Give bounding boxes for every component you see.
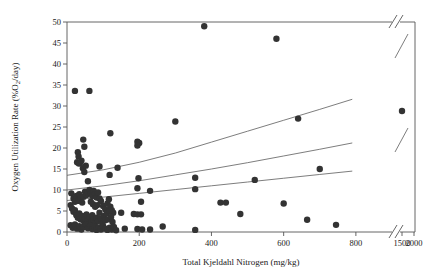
scatter-plot-figure: 0510152025303540455002004006008001500200… xyxy=(0,0,446,280)
data-point xyxy=(147,226,153,232)
x-tick-label-2000: 2000 xyxy=(406,238,423,248)
data-point xyxy=(280,200,286,206)
data-point xyxy=(172,118,178,124)
data-point xyxy=(81,144,87,150)
axes-layer xyxy=(63,15,415,238)
y-axis-label-main: Oxygen Utilization Rate (%O xyxy=(10,84,20,192)
y-tick-label-25: 25 xyxy=(53,122,62,132)
y-tick-label-40: 40 xyxy=(53,59,62,69)
y-tick-label-0: 0 xyxy=(57,227,61,237)
middle-curve-right xyxy=(395,128,408,152)
data-point xyxy=(147,188,153,194)
x-tick-label-0: 0 xyxy=(65,238,69,248)
data-point xyxy=(106,196,112,202)
data-point xyxy=(95,189,101,195)
y-axis-label-text: Oxygen Utilization Rate (%O2/day) xyxy=(10,63,21,192)
plot-frame-right-stub xyxy=(400,22,415,232)
data-point xyxy=(118,209,124,215)
data-point xyxy=(399,108,405,114)
y-axis-label: Oxygen Utilization Rate (%O2/day) xyxy=(10,63,21,192)
data-point xyxy=(80,136,86,142)
data-point xyxy=(192,175,198,181)
data-point xyxy=(223,199,229,205)
y-tick-label-50: 50 xyxy=(53,17,62,27)
y-tick-label-15: 15 xyxy=(53,164,62,174)
data-point xyxy=(134,142,140,148)
data-point xyxy=(94,202,100,208)
data-point xyxy=(122,225,128,231)
data-point xyxy=(192,227,198,233)
data-point xyxy=(96,163,102,169)
data-point xyxy=(317,166,323,172)
x-tick-label-600: 600 xyxy=(277,238,290,248)
y-tick-label-35: 35 xyxy=(53,80,62,90)
upper-curve-right xyxy=(395,34,408,58)
data-point xyxy=(333,222,339,228)
y-tick-label-5: 5 xyxy=(57,206,61,216)
x-tick-label-200: 200 xyxy=(133,238,146,248)
data-point xyxy=(107,130,113,136)
data-point xyxy=(114,165,120,171)
y-tick-label-10: 10 xyxy=(53,185,62,195)
x-tick-label-400: 400 xyxy=(205,238,218,248)
data-point xyxy=(134,185,140,191)
data-point xyxy=(83,162,89,168)
data-point xyxy=(295,115,301,121)
data-point xyxy=(81,169,87,175)
data-point xyxy=(79,199,85,205)
data-point xyxy=(159,223,165,229)
middle-curve xyxy=(67,143,352,190)
data-point xyxy=(106,208,112,214)
x-tick-label-800: 800 xyxy=(350,238,363,248)
y-tick-label-45: 45 xyxy=(53,38,62,48)
data-point xyxy=(139,226,145,232)
data-point xyxy=(192,186,198,192)
y-tick-label-30: 30 xyxy=(53,101,62,111)
data-point xyxy=(86,88,92,94)
data-point xyxy=(201,23,207,29)
data-point xyxy=(304,217,310,223)
x-axis-label: Total Kjeldahl Nitrogen (mg/kg) xyxy=(182,257,299,267)
data-point xyxy=(252,177,258,183)
trend-lines-layer xyxy=(67,34,408,201)
data-points-layer xyxy=(67,23,405,234)
data-point xyxy=(237,211,243,217)
data-point xyxy=(72,88,78,94)
data-point xyxy=(113,227,119,233)
data-point xyxy=(135,175,141,181)
data-point xyxy=(78,157,84,163)
y-axis-label-tail: /day) xyxy=(10,63,20,82)
data-point xyxy=(273,36,279,42)
data-point xyxy=(106,172,112,178)
plot-canvas: 0510152025303540455002004006008001500200… xyxy=(0,0,446,280)
data-point xyxy=(138,211,144,217)
y-tick-label-20: 20 xyxy=(53,143,62,153)
data-point xyxy=(85,178,91,184)
upper-curve xyxy=(67,99,352,175)
data-point xyxy=(138,199,144,205)
